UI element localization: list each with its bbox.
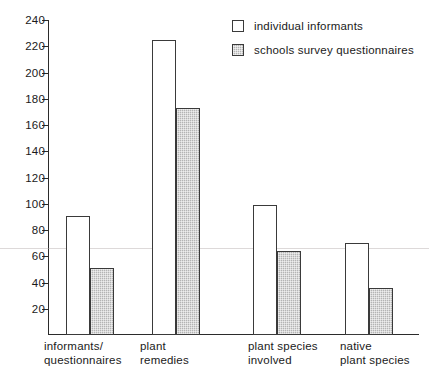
bar — [176, 108, 200, 335]
y-tick-label: 200 — [25, 67, 45, 79]
y-tick-label: 100 — [25, 198, 45, 210]
bar-chart: individual informants schools survey que… — [0, 0, 429, 379]
x-axis-category-label: native plant species — [340, 340, 410, 367]
y-tick-label: 240 — [25, 14, 45, 26]
y-axis-line — [48, 20, 49, 335]
x-axis-category-label: informants/ questionnaires — [44, 340, 122, 367]
bar — [253, 205, 277, 335]
y-tick-label: 180 — [25, 93, 45, 105]
bar — [369, 288, 393, 335]
y-tick-label: 60 — [32, 250, 45, 262]
bar — [90, 268, 114, 335]
y-tick-label: 20 — [32, 303, 45, 315]
y-tick-label: 140 — [25, 145, 45, 157]
y-tick-label: 160 — [25, 119, 45, 131]
bar — [152, 40, 176, 335]
y-tick-label: 40 — [32, 277, 45, 289]
bar — [66, 216, 90, 335]
plot-area: 20406080100120140160180200220240 — [48, 20, 419, 335]
bar — [277, 251, 301, 335]
bar — [345, 243, 369, 335]
y-tick-label: 220 — [25, 40, 45, 52]
y-tick-label: 80 — [32, 224, 45, 236]
y-tick-label: 120 — [25, 172, 45, 184]
x-axis-category-label: plant remedies — [140, 340, 189, 367]
x-axis-category-label: plant species involved — [248, 340, 318, 367]
